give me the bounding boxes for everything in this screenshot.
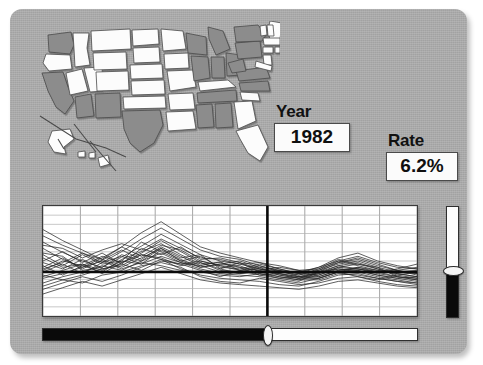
rate-label: Rate (388, 131, 458, 150)
state-MO[interactable] (167, 70, 196, 91)
time-series-chart[interactable] (42, 205, 418, 317)
state-RI[interactable] (275, 47, 280, 53)
state-MI[interactable] (208, 27, 230, 55)
rate-scale-slider[interactable] (446, 206, 459, 318)
state-CO[interactable] (96, 71, 129, 91)
state-ID[interactable] (73, 33, 90, 67)
state-IA[interactable] (164, 53, 189, 69)
state-GA[interactable] (234, 101, 256, 129)
rate-value[interactable]: 6.2% (386, 152, 458, 181)
application-root: Year 1982 Rate 6.2% (0, 0, 483, 365)
state-WA[interactable] (48, 32, 74, 54)
year-slider-thumb[interactable] (263, 325, 273, 346)
state-MN[interactable] (161, 29, 186, 51)
state-HI-c[interactable] (89, 152, 95, 158)
state-IN[interactable] (211, 57, 225, 78)
state-MA[interactable] (263, 38, 280, 45)
state-OK[interactable] (123, 96, 166, 109)
state-KS[interactable] (131, 80, 165, 95)
state-SC[interactable] (240, 92, 260, 101)
state-PA[interactable] (235, 41, 262, 59)
state-MS[interactable] (196, 104, 214, 128)
state-AR[interactable] (168, 93, 195, 110)
state-FL[interactable] (236, 125, 268, 161)
year-label: Year (276, 102, 350, 121)
state-LA[interactable] (166, 111, 196, 131)
year-slider[interactable] (42, 328, 418, 341)
state-WI[interactable] (186, 33, 207, 55)
state-SD[interactable] (133, 47, 160, 63)
state-NE[interactable] (130, 64, 163, 79)
state-IL[interactable] (191, 56, 210, 81)
state-VT[interactable] (260, 25, 267, 36)
state-WY[interactable] (93, 52, 127, 70)
time-series-chart-svg (43, 206, 417, 316)
state-MT[interactable] (91, 29, 131, 51)
year-value[interactable]: 1982 (274, 123, 350, 152)
state-OR[interactable] (43, 54, 72, 71)
rate-readout: Rate 6.2% (386, 131, 458, 181)
state-ND[interactable] (132, 29, 159, 46)
state-TX[interactable] (122, 110, 163, 152)
state-CT[interactable] (263, 47, 273, 53)
us-map[interactable] (30, 21, 280, 184)
year-slider-fill (43, 329, 267, 340)
us-map-svg (30, 21, 280, 184)
rate-scale-slider-fill (447, 270, 458, 317)
state-NM[interactable] (95, 93, 121, 118)
state-NH[interactable] (267, 25, 274, 36)
state-AL[interactable] (215, 103, 233, 128)
state-AZ[interactable] (75, 94, 94, 118)
state-KY[interactable] (198, 80, 236, 91)
state-AK[interactable] (48, 129, 74, 154)
main-panel: Year 1982 Rate 6.2% (10, 9, 467, 354)
state-TN[interactable] (197, 90, 237, 103)
year-readout: Year 1982 (274, 102, 350, 152)
state-HI-b[interactable] (78, 151, 85, 157)
state-NC[interactable] (239, 81, 270, 91)
state-NV[interactable] (66, 69, 88, 95)
rate-scale-slider-thumb[interactable] (443, 266, 464, 276)
